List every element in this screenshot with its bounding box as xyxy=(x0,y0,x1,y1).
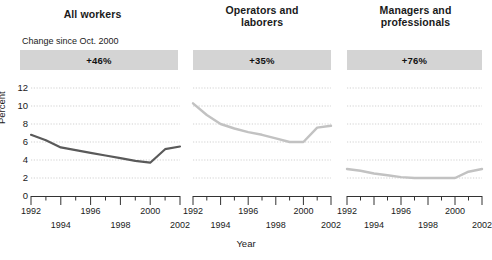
panel-title-managers-professionals: Managers and professionals xyxy=(339,4,492,28)
x-label-2000: 2000 xyxy=(140,206,160,216)
three-panel-line-chart: All workers Change since Oct. 2000 +46% … xyxy=(0,0,492,260)
x-axis-operators-laborers xyxy=(193,196,331,206)
y-axis-ticks: 12 10 8 6 4 2 0 xyxy=(0,88,28,196)
y-tick-12: 12 xyxy=(4,83,28,93)
x-label-1996: 1996 xyxy=(81,206,101,216)
plot-area-all-workers xyxy=(31,88,180,196)
x-label-1992: 1992 xyxy=(21,206,41,216)
x-tick-marks xyxy=(193,196,331,205)
panel-title-line1: Operators and xyxy=(225,4,298,16)
gridlines xyxy=(193,88,331,178)
x-label-1998: 1998 xyxy=(266,220,286,230)
x-label-1992: 1992 xyxy=(337,206,357,216)
series-line-all-workers xyxy=(31,135,180,163)
panel-managers-professionals: Managers and professionals +76% xyxy=(339,0,492,260)
panel-title-all-workers: All workers xyxy=(0,8,185,20)
x-axis-labels-managers-professionals: 1992 1994 1996 1998 2000 2002 xyxy=(347,206,482,236)
x-label-1998: 1998 xyxy=(110,220,130,230)
plot-svg-all-workers xyxy=(31,88,180,196)
gridlines xyxy=(347,88,482,178)
panel-title-line2: laborers xyxy=(241,16,283,28)
x-label-1992: 1992 xyxy=(183,206,203,216)
x-label-1994: 1994 xyxy=(364,220,384,230)
y-tick-6: 6 xyxy=(4,137,28,147)
panel-operators-laborers: Operators and laborers +35% xyxy=(185,0,339,260)
x-axis-labels-all-workers: 1992 1994 1996 1998 2000 2002 xyxy=(31,206,180,236)
change-badge-operators-laborers: +35% xyxy=(193,50,331,70)
y-tick-4: 4 xyxy=(4,155,28,165)
y-tick-10: 10 xyxy=(4,101,28,111)
panel-title-line1: Managers and xyxy=(380,4,452,16)
plot-area-operators-laborers xyxy=(193,88,331,196)
x-label-2002: 2002 xyxy=(472,220,492,230)
change-badge-managers-professionals: +76% xyxy=(347,50,482,70)
plot-area-managers-professionals xyxy=(347,88,482,196)
x-tick-marks xyxy=(347,196,482,205)
y-tick-8: 8 xyxy=(4,119,28,129)
x-label-2000: 2000 xyxy=(293,206,313,216)
gridlines xyxy=(31,88,180,178)
change-badge-all-workers: +46% xyxy=(20,50,178,70)
panel-all-workers: All workers Change since Oct. 2000 +46% … xyxy=(0,0,185,260)
x-label-2002: 2002 xyxy=(321,220,341,230)
x-label-1994: 1994 xyxy=(51,220,71,230)
x-label-1998: 1998 xyxy=(418,220,438,230)
series-line-operators-laborers xyxy=(193,103,331,142)
x-label-2000: 2000 xyxy=(445,206,465,216)
change-since-caption: Change since Oct. 2000 xyxy=(22,36,119,46)
panel-title-line2: professionals xyxy=(381,16,451,28)
x-axis-title: Year xyxy=(0,238,492,249)
panel-title-operators-laborers: Operators and laborers xyxy=(185,4,339,28)
x-axis-all-workers xyxy=(31,196,180,206)
x-label-1996: 1996 xyxy=(238,206,258,216)
plot-svg-operators-laborers xyxy=(193,88,331,196)
x-label-1994: 1994 xyxy=(211,220,231,230)
x-axis-labels-operators-laborers: 1992 1994 1996 1998 2000 2002 xyxy=(193,206,331,236)
plot-svg-managers-professionals xyxy=(347,88,482,196)
y-tick-2: 2 xyxy=(4,173,28,183)
series-line-managers-professionals xyxy=(347,169,482,178)
x-axis-managers-professionals xyxy=(347,196,482,206)
x-tick-marks xyxy=(31,196,180,205)
x-label-1996: 1996 xyxy=(391,206,411,216)
y-tick-0: 0 xyxy=(4,191,28,201)
